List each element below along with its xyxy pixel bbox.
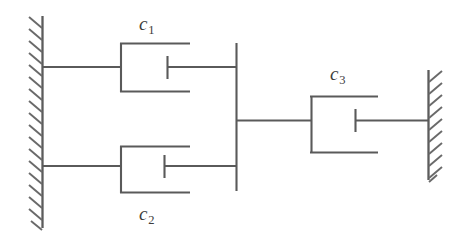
damper-c1-label: c1	[139, 13, 154, 35]
damper-c3-label-subscript: 3	[339, 73, 345, 87]
fixed-support-right	[429, 70, 443, 182]
left-wall-hatching	[29, 17, 42, 230]
damper-c2-label: c2	[139, 203, 154, 225]
damper-c2	[42, 146, 237, 193]
damper-c3-label-symbol: c	[330, 63, 339, 84]
damper-c1-label-subscript: 1	[148, 23, 154, 37]
damper-c3-label: c3	[330, 63, 345, 85]
damper-c2-label-subscript: 2	[148, 213, 154, 227]
right-wall-hatching	[429, 71, 442, 182]
damper-c1	[42, 43, 237, 92]
damper-c3	[310, 96, 429, 153]
damper-schematic-figure: c1 c2 c3	[0, 0, 461, 241]
damper-c2-label-symbol: c	[139, 203, 148, 224]
damper-c1-label-symbol: c	[139, 13, 148, 34]
schematic-canvas	[0, 0, 461, 241]
fixed-support-left	[29, 16, 43, 230]
